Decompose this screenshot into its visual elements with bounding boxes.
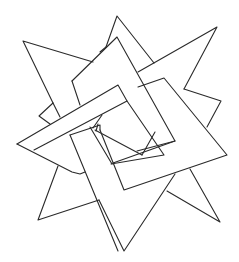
frame-b-lower [17,144,85,174]
frame-c-outer [100,78,227,190]
star-figure-canvas [0,0,239,262]
star-arm-right [184,89,221,127]
center-inner-2 [142,132,155,155]
star-arm-left-small [39,103,53,124]
center-inner-1 [95,130,142,155]
star-arm-upper-left-inner [53,103,60,117]
center-small-1 [96,124,98,131]
frame-d-left [70,135,118,251]
interwoven-star-drawing [0,0,239,262]
star-arm-bottom-right [167,169,220,222]
star-arm-top [106,16,154,63]
star-arm-bottom-left [38,166,99,220]
star-arm-upper-left [23,41,93,103]
frame-a-inner [72,81,80,105]
